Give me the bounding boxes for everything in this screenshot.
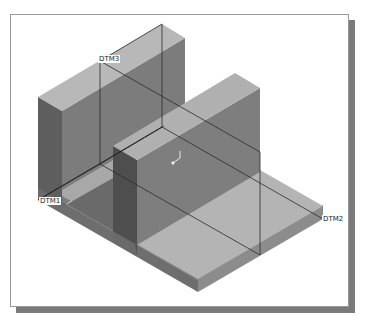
datum-label-dtm1[interactable]: DTM1 xyxy=(39,197,61,205)
part-model[interactable] xyxy=(0,0,366,323)
datum-label-dtm2[interactable]: DTM2 xyxy=(322,215,344,223)
datum-label-dtm3[interactable]: DTM3 xyxy=(98,55,120,63)
